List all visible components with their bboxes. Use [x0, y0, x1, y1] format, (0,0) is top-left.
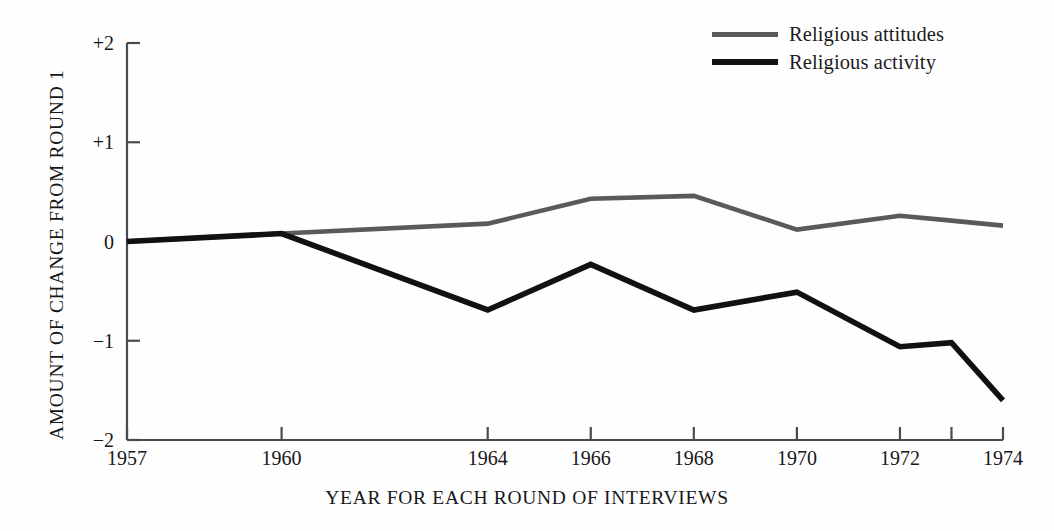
- axis-lines: [127, 43, 1003, 440]
- x-axis-tick-label: 1964: [468, 447, 508, 470]
- line-chart-figure: +2+10−1−2 195719601964196619681970197219…: [0, 0, 1054, 531]
- legend-line-swatch: [712, 32, 778, 37]
- data-series-group: [127, 196, 1003, 400]
- y-axis-tick-label: +1: [70, 131, 114, 154]
- x-axis-title: YEAR FOR EACH ROUND OF INTERVIEWS: [0, 487, 1054, 509]
- x-axis-tick-label: 1972: [880, 447, 920, 470]
- legend-item-label: Religious activity: [789, 51, 936, 74]
- legend-line-swatch: [712, 59, 778, 65]
- y-axis-tick-label: +2: [70, 32, 114, 55]
- chart-legend: Religious attitudesReligious activity: [712, 20, 1042, 76]
- series-line: [127, 234, 1003, 401]
- x-axis-ticks: [127, 427, 1003, 440]
- x-axis-tick-label: 1970: [777, 447, 817, 470]
- legend-item[interactable]: Religious activity: [712, 48, 1042, 76]
- legend-item-label: Religious attitudes: [789, 23, 944, 46]
- x-axis-tick-label: 1957: [107, 447, 147, 470]
- y-axis-tick-label: 0: [70, 230, 114, 253]
- x-axis-tick-label: 1968: [674, 447, 714, 470]
- y-axis-tick-label: −1: [70, 329, 114, 352]
- legend-item[interactable]: Religious attitudes: [712, 20, 1042, 48]
- x-axis-tick-label: 1960: [262, 447, 302, 470]
- x-axis-tick-label: 1974: [983, 447, 1023, 470]
- x-axis-tick-label: 1966: [571, 447, 611, 470]
- y-axis-title: AMOUNT OF CHANGE FROM ROUND 1: [46, 70, 68, 440]
